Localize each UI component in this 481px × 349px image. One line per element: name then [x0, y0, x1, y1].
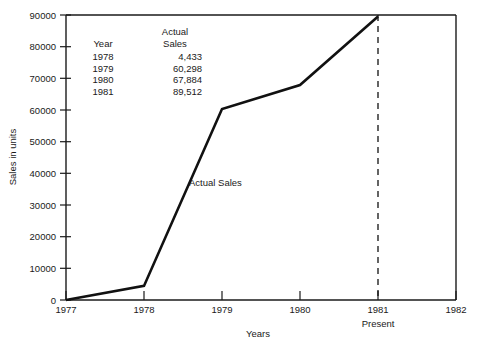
- present-label: Present: [362, 318, 395, 329]
- table-row: 1981 89,512: [74, 86, 208, 98]
- y-tick-label-60000: 60000: [30, 105, 56, 116]
- sales-data-table: Year Actual Sales 1978 4,433 1979 60,298…: [74, 26, 208, 97]
- table-row: 1978 4,433: [74, 51, 208, 63]
- table-row: 1979 60,298: [74, 63, 208, 75]
- x-tick-label-1982: 1982: [445, 304, 466, 315]
- table-header-sales-line2: Sales: [142, 38, 208, 50]
- x-axis-title: Years: [246, 328, 270, 339]
- table-cell-sales: 67,884: [132, 74, 208, 86]
- chart-canvas: 0 10000 20000 30000 40000 50000 60000 70…: [0, 0, 481, 349]
- y-tick-label-30000: 30000: [30, 200, 56, 211]
- table-cell-year: 1981: [74, 86, 132, 98]
- table-row: 1980 67,884: [74, 74, 208, 86]
- y-tick-label-40000: 40000: [30, 168, 56, 179]
- sales-line-chart: 0 10000 20000 30000 40000 50000 60000 70…: [0, 0, 481, 349]
- table-cell-sales: 60,298: [132, 63, 208, 75]
- table-cell-sales: 89,512: [132, 86, 208, 98]
- table-header-sales: Actual Sales: [132, 26, 208, 51]
- table-cell-year: 1980: [74, 74, 132, 86]
- x-tick-label-1978: 1978: [133, 304, 154, 315]
- series-annotation-label: Actual Sales: [189, 177, 242, 188]
- y-tick-label-90000: 90000: [30, 10, 56, 21]
- table-cell-year: 1978: [74, 51, 132, 63]
- y-tick-label-20000: 20000: [30, 231, 56, 242]
- x-tick-label-1977: 1977: [55, 304, 76, 315]
- y-tick-label-70000: 70000: [30, 73, 56, 84]
- table-cell-sales: 4,433: [132, 51, 208, 63]
- table-cell-year: 1979: [74, 63, 132, 75]
- y-axis-title: Sales in units: [7, 129, 18, 186]
- y-tick-label-50000: 50000: [30, 136, 56, 147]
- table-header-sales-line1: Actual: [142, 26, 208, 38]
- x-tick-label-1981: 1981: [367, 304, 388, 315]
- y-tick-label-10000: 10000: [30, 263, 56, 274]
- x-tick-label-1980: 1980: [289, 304, 310, 315]
- y-tick-label-80000: 80000: [30, 41, 56, 52]
- x-tick-label-1979: 1979: [211, 304, 232, 315]
- table-header-year: Year: [74, 26, 132, 51]
- table-header-row: Year Actual Sales: [74, 26, 208, 51]
